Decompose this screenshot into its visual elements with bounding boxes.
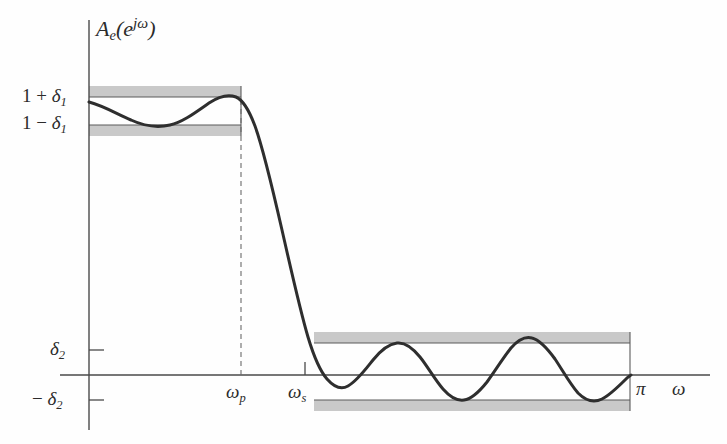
label-one-minus-delta1: 1 − δ1 (22, 112, 67, 137)
delta-symbol: δ (50, 338, 59, 359)
label-omega-s: ωs (288, 381, 306, 406)
y-axis-label: Ae(ejω) (96, 14, 155, 44)
label-omega-p: ωp (226, 381, 246, 406)
label-one-plus-delta1: 1 + δ1 (22, 85, 67, 110)
filter-response-plot (0, 0, 727, 444)
ylabel-exp-sup: jω (133, 14, 148, 31)
delta-subscript: 1 (61, 122, 67, 136)
ylabel-base: A (96, 16, 109, 41)
omega-subscript: s (301, 391, 306, 405)
neg-delta2-prefix: − (32, 388, 47, 409)
omega-symbol: ω (288, 381, 301, 402)
one-plus-prefix: 1 + (22, 85, 52, 106)
figure-container: Ae(ejω) 1 + δ1 1 − δ1 δ2 − δ2 ωp ωs π ω (0, 0, 727, 444)
stopband-upper-band (314, 332, 630, 343)
one-minus-prefix: 1 − (22, 112, 52, 133)
stopband-lower-band (314, 400, 630, 411)
label-omega-axis: ω (672, 378, 685, 400)
label-pi: π (636, 378, 646, 400)
omega-subscript: p (239, 391, 245, 405)
delta-subscript: 2 (59, 348, 65, 362)
omega-symbol: ω (226, 381, 239, 402)
label-delta2: δ2 (50, 338, 65, 363)
delta-subscript: 2 (56, 398, 62, 412)
delta-symbol: δ (47, 388, 56, 409)
delta-subscript: 1 (61, 95, 67, 109)
passband-upper-band (89, 86, 241, 97)
ylabel-close-paren: ) (148, 16, 155, 41)
delta-symbol: δ (52, 112, 61, 133)
amplitude-response-curve (89, 96, 631, 401)
ylabel-exp-base: e (123, 16, 133, 41)
label-neg-delta2: − δ2 (32, 388, 63, 413)
delta-symbol: δ (52, 85, 61, 106)
